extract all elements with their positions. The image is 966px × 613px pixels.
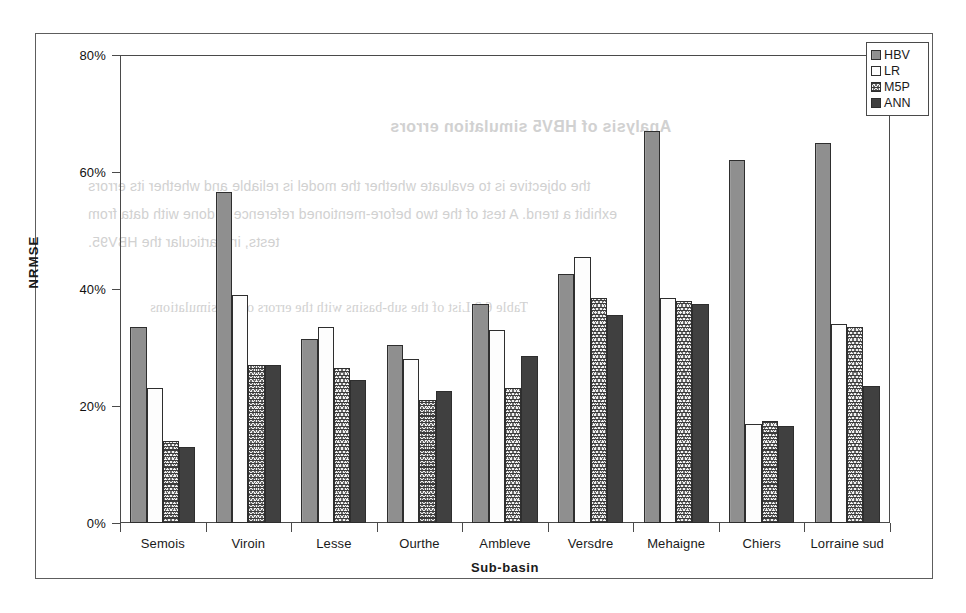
- y-tick-label: 60%: [48, 165, 106, 180]
- bar-hbv-ambleve: [472, 304, 488, 523]
- y-tick-label: 40%: [48, 282, 106, 297]
- bar-ann-semois: [179, 447, 195, 523]
- bars-layer: [120, 55, 890, 523]
- y-tick-label: 0%: [48, 516, 106, 531]
- bar-hbv-chiers: [729, 160, 745, 523]
- x-category-label: Viroin: [232, 536, 266, 551]
- x-category-label: Chiers: [743, 536, 781, 551]
- chart-legend: HBVLRM5PANN: [866, 42, 929, 116]
- bar-m5p-chiers: [762, 421, 778, 523]
- bar-hbv-lorraine-sud: [815, 143, 831, 523]
- bar-hbv-ourthe: [387, 345, 403, 523]
- bar-m5p-lesse: [334, 368, 350, 523]
- m5p-swatch: [871, 82, 881, 92]
- x-tick-mark: [719, 523, 720, 532]
- bar-m5p-viroin: [248, 365, 264, 523]
- legend-label: LR: [884, 65, 900, 78]
- x-category-label: Ambleve: [479, 536, 530, 551]
- x-tick-mark: [548, 523, 549, 532]
- bar-ann-viroin: [265, 365, 281, 523]
- x-tick-mark: [291, 523, 292, 532]
- bar-lr-mehaigne: [660, 298, 676, 523]
- x-tick-mark: [377, 523, 378, 532]
- bar-lr-versdre: [574, 257, 590, 523]
- bar-ann-mehaigne: [692, 304, 708, 523]
- legend-item-hbv[interactable]: HBV: [871, 47, 924, 63]
- bar-hbv-viroin: [216, 192, 232, 523]
- bar-m5p-ambleve: [505, 388, 521, 523]
- x-tick-mark: [206, 523, 207, 532]
- bar-ann-lorraine-sud: [863, 386, 879, 523]
- bar-m5p-ourthe: [419, 400, 435, 523]
- y-axis-title: NRMSE: [26, 236, 41, 289]
- x-category-label: Lorraine sud: [810, 536, 883, 551]
- lr-swatch: [871, 66, 881, 76]
- legend-label: HBV: [884, 49, 910, 62]
- bar-m5p-semois: [163, 441, 179, 523]
- x-tick-mark: [120, 523, 121, 532]
- y-tick-label: 20%: [48, 399, 106, 414]
- x-tick-mark: [633, 523, 634, 532]
- legend-label: ANN: [884, 97, 911, 110]
- x-tick-mark: [804, 523, 805, 532]
- x-category-label: Versdre: [568, 536, 614, 551]
- bar-m5p-versdre: [591, 298, 607, 523]
- bar-ann-lesse: [350, 380, 366, 523]
- legend-item-m5p[interactable]: M5P: [871, 79, 924, 95]
- legend-item-ann[interactable]: ANN: [871, 95, 924, 111]
- x-category-label: Lesse: [316, 536, 351, 551]
- x-axis-title: Sub-basin: [471, 560, 539, 575]
- x-category-label: Ourthe: [399, 536, 439, 551]
- bar-hbv-semois: [130, 327, 146, 523]
- bar-ann-versdre: [607, 315, 623, 523]
- bar-ann-ambleve: [521, 356, 537, 523]
- hbv-swatch: [871, 50, 881, 60]
- bar-ann-chiers: [778, 426, 794, 523]
- x-tick-mark: [890, 523, 891, 532]
- x-category-label: Mehaigne: [647, 536, 705, 551]
- ann-swatch: [871, 98, 881, 108]
- bar-lr-chiers: [745, 424, 761, 523]
- bar-m5p-mehaigne: [676, 301, 692, 523]
- bar-lr-viroin: [232, 295, 248, 523]
- bar-hbv-mehaigne: [644, 131, 660, 523]
- bar-chart: 0%20%40%60%80% SemoisViroinLesseOurtheAm…: [0, 0, 966, 613]
- bar-lr-semois: [147, 388, 163, 523]
- bar-m5p-lorraine-sud: [847, 327, 863, 523]
- bar-lr-lorraine-sud: [831, 324, 847, 523]
- bar-lr-ambleve: [489, 330, 505, 523]
- bar-hbv-versdre: [558, 274, 574, 523]
- bar-ann-ourthe: [436, 391, 452, 523]
- bar-hbv-lesse: [301, 339, 317, 523]
- x-category-label: Semois: [141, 536, 185, 551]
- bar-lr-ourthe: [403, 359, 419, 523]
- legend-item-lr[interactable]: LR: [871, 63, 924, 79]
- y-tick-label: 80%: [48, 48, 106, 63]
- x-tick-mark: [462, 523, 463, 532]
- legend-label: M5P: [884, 81, 910, 94]
- bar-lr-lesse: [318, 327, 334, 523]
